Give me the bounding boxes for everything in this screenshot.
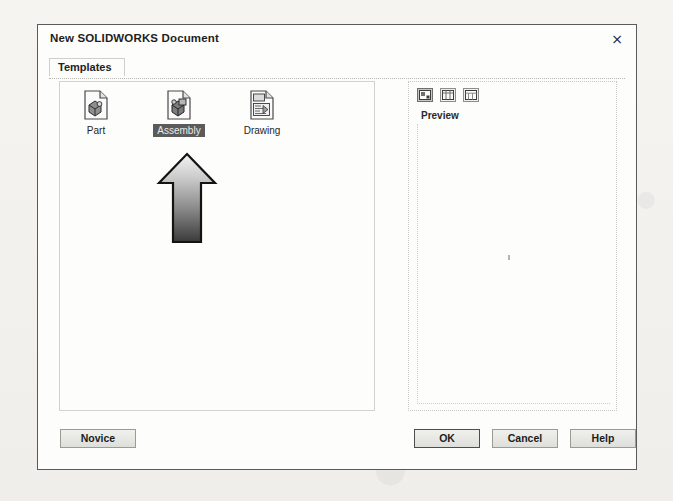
template-label: Part <box>83 124 109 137</box>
tab-strip-divider <box>49 77 625 79</box>
help-button[interactable]: Help <box>570 429 636 448</box>
template-label: Drawing <box>240 124 285 137</box>
tab-templates[interactable]: Templates <box>49 58 125 76</box>
drawing-document-icon <box>249 90 275 120</box>
template-list: Part Assembly <box>66 90 368 138</box>
assembly-document-icon <box>166 90 192 120</box>
preview-view-toolbar <box>417 88 479 102</box>
list-view-button[interactable] <box>440 88 456 102</box>
large-icons-view-button[interactable] <box>417 88 433 102</box>
template-item-part[interactable]: Part <box>66 90 126 138</box>
template-item-drawing[interactable]: Drawing <box>232 90 292 138</box>
new-document-dialog: New SOLIDWORKS Document × Templates <box>37 24 637 470</box>
tab-strip: Templates <box>49 58 625 78</box>
details-view-button[interactable] <box>463 88 479 102</box>
cancel-button[interactable]: Cancel <box>492 429 558 448</box>
template-item-assembly[interactable]: Assembly <box>149 90 209 138</box>
details-view-icon <box>465 90 477 100</box>
large-icons-icon <box>419 90 431 100</box>
close-icon[interactable]: × <box>606 29 628 49</box>
dialog-titlebar: New SOLIDWORKS Document × <box>38 25 636 55</box>
preview-content-area <box>417 124 610 404</box>
ok-button[interactable]: OK <box>414 429 480 448</box>
novice-button[interactable]: Novice <box>60 429 136 448</box>
list-view-icon <box>442 90 454 100</box>
preview-label: Preview <box>421 110 459 121</box>
dialog-title: New SOLIDWORKS Document <box>50 32 219 44</box>
part-document-icon <box>83 90 109 120</box>
template-label: Assembly <box>153 124 204 137</box>
preview-artifact <box>508 255 510 260</box>
templates-panel: Part Assembly <box>59 81 375 411</box>
preview-panel: Preview <box>408 81 617 411</box>
